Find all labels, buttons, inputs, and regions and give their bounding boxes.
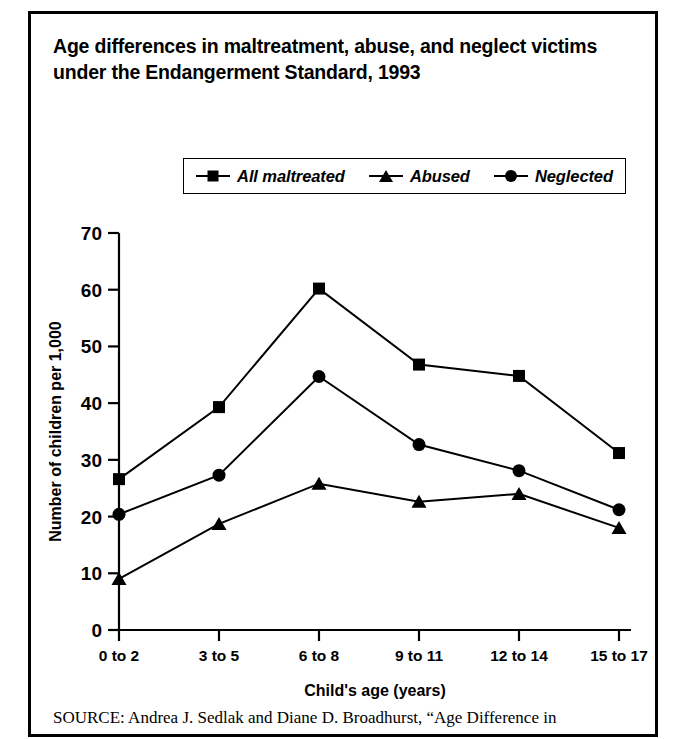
y-tick-label-50: 50 [81,336,102,357]
data-point-square-4 [513,370,525,382]
data-point-triangle-2 [312,477,327,490]
x-tick-label-1: 3 to 5 [199,647,240,664]
chart-title: Age differences in maltreatment, abuse, … [53,34,633,85]
x-tick-label-5: 15 to 17 [590,647,648,664]
y-tick-label-70: 70 [81,223,102,244]
x-tick-label-2: 6 to 8 [299,647,340,664]
series-abused [112,477,627,585]
data-point-square-0 [113,473,125,485]
legend-marker-circle [494,169,528,183]
data-point-circle-0 [113,508,126,521]
figure-frame: Age differences in maltreatment, abuse, … [28,11,658,737]
line-chart-canvas: 0102030405060700 to 23 to 56 to 89 to 11… [31,14,661,739]
y-axis-title: Number of children per 1,000 [47,321,64,542]
chart-axis-labels: 0102030405060700 to 23 to 56 to 89 to 11… [47,223,648,699]
chart-legend: All maltreated Abused Neglected [183,158,626,194]
y-tick-label-60: 60 [81,280,102,301]
x-tick-label-3: 9 to 11 [395,647,444,664]
series-line-0 [119,289,619,480]
legend-marker-triangle [369,169,403,183]
data-point-triangle-5 [612,521,627,534]
y-tick-label-30: 30 [81,450,102,471]
series-line-2 [119,376,619,514]
data-point-circle-5 [613,503,626,516]
series-neglected [113,370,626,521]
legend-marker-square [196,169,230,183]
legend-item-neglected[interactable]: Neglected [494,167,613,186]
source-text: Andrea J. Sedlak and Diane D. Broadhurst… [128,708,556,727]
data-point-triangle-4 [512,487,527,500]
data-point-circle-1 [213,469,226,482]
source-note: SOURCE: Andrea J. Sedlak and Diane D. Br… [53,708,653,728]
data-point-circle-3 [413,438,426,451]
source-label: SOURCE: [53,708,125,727]
legend-label-abused: Abused [410,167,470,186]
x-tick-label-0: 0 to 2 [99,647,139,664]
chart-axes [108,233,631,641]
data-point-square-3 [413,359,425,371]
data-point-circle-2 [313,370,326,383]
series-line-1 [119,484,619,579]
y-tick-label-40: 40 [81,393,102,414]
data-point-circle-4 [513,464,526,477]
series-all-maltreated [113,283,625,486]
data-point-triangle-0 [112,572,127,585]
data-point-square-5 [613,447,625,459]
y-tick-label-20: 20 [81,507,102,528]
y-tick-label-10: 10 [81,563,102,584]
data-point-triangle-1 [212,517,227,530]
legend-label-all-maltreated: All maltreated [237,167,345,186]
x-tick-label-4: 12 to 14 [490,647,548,664]
plot-area: 0102030405060700 to 23 to 56 to 89 to 11… [31,14,661,739]
data-point-square-2 [313,283,325,295]
legend-item-all-maltreated[interactable]: All maltreated [196,167,345,186]
data-point-square-1 [213,401,225,413]
chart-series-group [112,283,627,585]
legend-label-neglected: Neglected [535,167,613,186]
y-tick-label-0: 0 [91,620,102,641]
legend-item-abused[interactable]: Abused [369,167,470,186]
x-axis-title: Child's age (years) [304,682,446,699]
data-point-triangle-3 [412,495,427,508]
